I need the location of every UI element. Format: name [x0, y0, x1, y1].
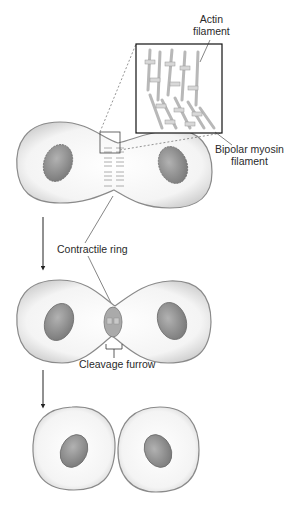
stage2-cell [17, 280, 211, 363]
inset-zoom [136, 44, 222, 133]
label-actin-line1: Actin [193, 13, 230, 25]
stage3-daughter-cells [33, 407, 199, 492]
cleavage-furrow-bracket [106, 344, 122, 358]
contractile-ring [104, 307, 122, 337]
diagram-canvas [0, 0, 297, 509]
stage1-cell [17, 122, 212, 208]
label-bipolar-myosin-filament: Bipolar myosin filament [215, 143, 284, 167]
label-cleavage-furrow: Cleavage furrow [79, 358, 155, 370]
label-myosin-line1: Bipolar myosin [215, 143, 284, 155]
label-actin-line2: filament [193, 25, 230, 37]
label-actin-filament: Actin filament [193, 13, 230, 37]
label-myosin-line2: filament [215, 155, 284, 167]
label-contractile-ring: Contractile ring [57, 243, 128, 255]
